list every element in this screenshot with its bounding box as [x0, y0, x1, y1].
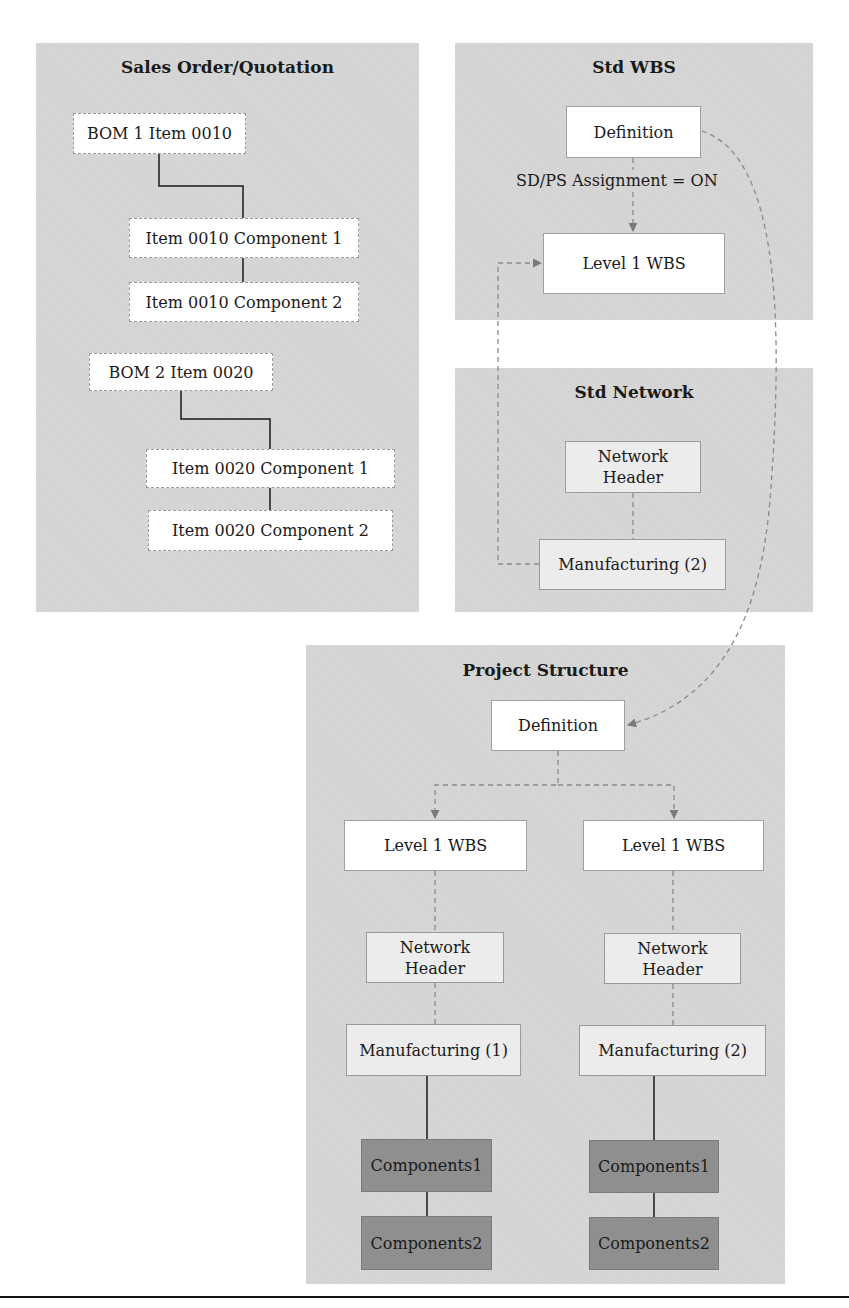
std-network-activity-node[interactable]: Manufacturing (2) — [539, 539, 726, 590]
project-level1-wbs-left[interactable]: Level 1 WBS — [344, 820, 527, 871]
bom2-component2-node[interactable]: Item 0020 Component 2 — [148, 510, 393, 551]
sales-order-title: Sales Order/Quotation — [36, 57, 419, 77]
project-components1-left[interactable]: Components1 — [361, 1139, 492, 1192]
project-components2-left[interactable]: Components2 — [361, 1216, 492, 1270]
project-network-header-left[interactable]: Network Header — [366, 932, 504, 983]
std-wbs-title: Std WBS — [455, 57, 813, 77]
project-components1-right[interactable]: Components1 — [589, 1140, 719, 1193]
bom2-component1-node[interactable]: Item 0020 Component 1 — [146, 449, 395, 488]
project-structure-title: Project Structure — [306, 660, 785, 680]
project-activity-left[interactable]: Manufacturing (1) — [346, 1024, 521, 1076]
project-activity-right[interactable]: Manufacturing (2) — [579, 1025, 766, 1076]
project-network-header-right[interactable]: Network Header — [604, 933, 741, 984]
sd-ps-assignment-label: SD/PS Assignment = ON — [516, 171, 718, 190]
bom1-node[interactable]: BOM 1 Item 0010 — [73, 113, 246, 154]
bottom-rule — [0, 1296, 849, 1298]
bom1-component2-node[interactable]: Item 0010 Component 2 — [129, 282, 359, 322]
std-network-header-node[interactable]: Network Header — [565, 441, 701, 493]
std-wbs-level1-node[interactable]: Level 1 WBS — [543, 233, 725, 294]
std-wbs-definition-node[interactable]: Definition — [566, 106, 701, 158]
project-level1-wbs-right[interactable]: Level 1 WBS — [583, 820, 764, 871]
std-network-title: Std Network — [455, 382, 813, 402]
bom1-component1-node[interactable]: Item 0010 Component 1 — [129, 218, 359, 258]
project-definition-node[interactable]: Definition — [491, 700, 625, 751]
bom2-node[interactable]: BOM 2 Item 0020 — [89, 353, 273, 391]
project-components2-right[interactable]: Components2 — [589, 1217, 719, 1270]
